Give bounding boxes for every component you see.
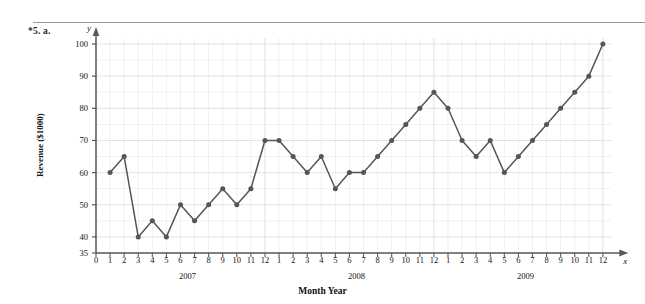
x-axis-symbol: x [622,256,627,266]
y-tick-label: 40 [62,233,88,242]
revenue-line-chart: Revenue ($1000) Month Year yx 3540506070… [0,0,645,304]
data-point-marker [417,106,422,111]
data-point-marker [277,138,282,143]
data-point-marker [333,186,338,191]
data-point-marker [262,138,267,143]
data-point-marker [474,154,479,159]
data-point-marker [220,186,225,191]
y-tick-label: 60 [62,169,88,178]
x-axis-year-label: 2007 [158,272,218,281]
data-point-marker [572,90,577,95]
data-point-marker [586,74,591,79]
data-point-marker [150,218,155,223]
data-point-marker [347,170,352,175]
x-tick-label: 12 [595,256,611,265]
y-axis-arrowhead [93,27,100,36]
data-point-marker [178,202,183,207]
data-point-marker [108,170,113,175]
y-tick-label: 50 [62,201,88,210]
data-point-marker [319,154,324,159]
data-point-marker [389,138,394,143]
data-point-marker [502,170,507,175]
data-point-marker [375,154,380,159]
data-point-marker [122,154,127,159]
data-point-marker [460,138,465,143]
data-point-marker [305,170,310,175]
data-point-marker [544,122,549,127]
data-point-marker [530,138,535,143]
data-point-marker [558,106,563,111]
data-point-marker [516,154,521,159]
data-point-marker [248,186,253,191]
data-point-marker [488,138,493,143]
y-tick-label: 70 [62,136,88,145]
data-point-marker [206,202,211,207]
data-point-marker [234,202,239,207]
data-point-marker [403,122,408,127]
y-tick-label: 100 [62,40,88,49]
y-axis-symbol: y [86,23,91,33]
data-point-marker [164,234,169,239]
data-point-marker [600,42,605,47]
data-point-marker [446,106,451,111]
data-point-marker [431,90,436,95]
data-point-marker [291,154,296,159]
data-point-marker [192,218,197,223]
data-point-marker [361,170,366,175]
y-tick-label: 35 [62,249,88,258]
x-axis-year-label: 2009 [495,272,555,281]
y-tick-label: 90 [62,72,88,81]
data-point-marker [136,234,141,239]
x-axis-year-label: 2008 [326,272,386,281]
y-tick-label: 80 [62,104,88,113]
